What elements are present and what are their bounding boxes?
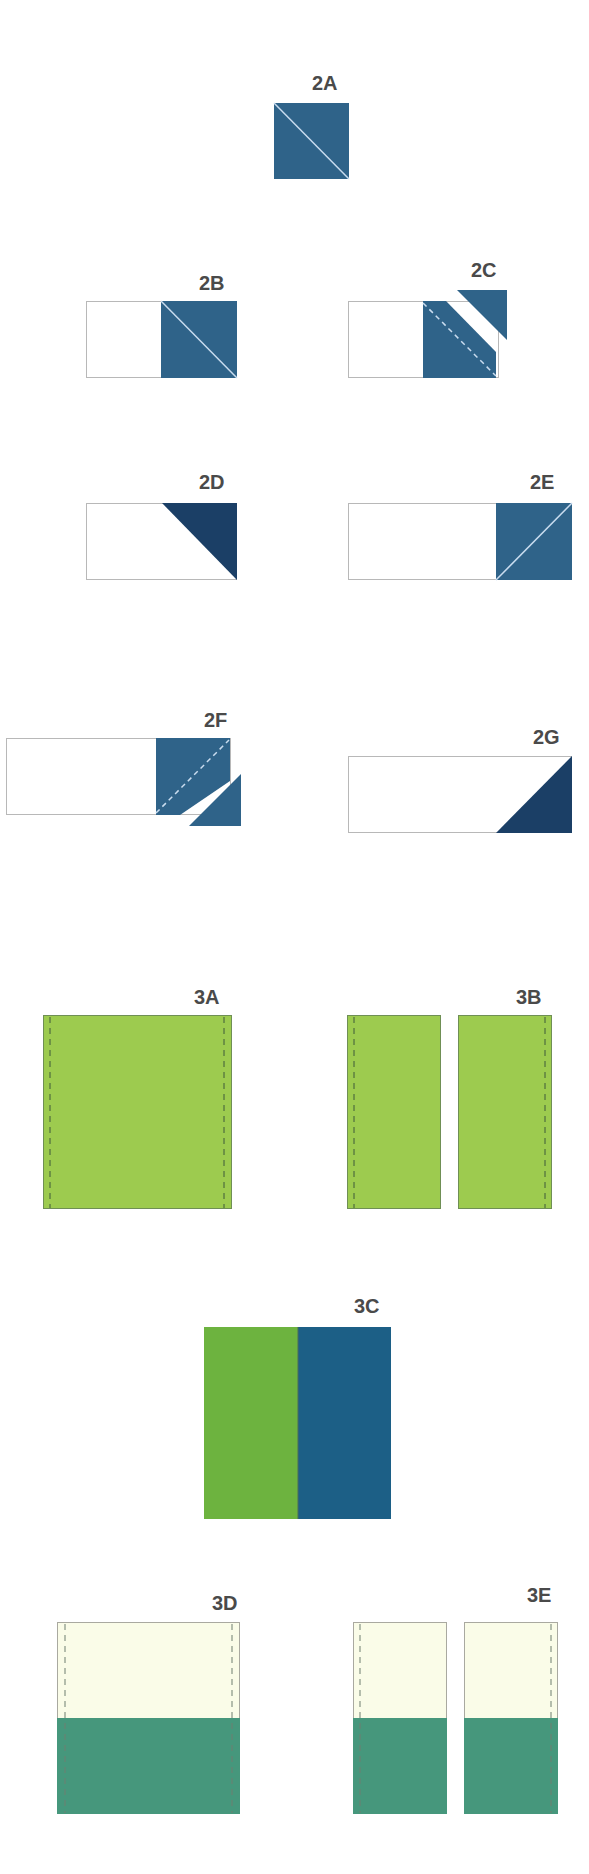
teal-strip-right	[464, 1718, 558, 1814]
step-label-2b: 2B	[199, 272, 225, 294]
step-2e: 2E	[349, 471, 573, 580]
step-label-3d: 3D	[212, 1592, 238, 1614]
step-label-2d: 2D	[199, 471, 225, 493]
green-half	[204, 1327, 298, 1519]
quilt-step-diagram: 2A 2B 2C 2D 2E 2F 2G	[0, 0, 589, 1874]
step-label-2g: 2G	[533, 726, 560, 748]
step-3c: 3C	[204, 1295, 391, 1519]
step-label-2f: 2F	[204, 709, 227, 731]
cream-strip-left	[354, 1623, 447, 1719]
green-square	[44, 1016, 232, 1209]
green-strip-right	[459, 1016, 552, 1209]
teal-strip-left	[353, 1718, 447, 1814]
step-2d: 2D	[87, 471, 238, 580]
step-3e: 3E	[353, 1584, 558, 1814]
step-2b: 2B	[87, 272, 238, 378]
cream-strip-right	[465, 1623, 558, 1719]
green-strip-left	[348, 1016, 441, 1209]
step-3b: 3B	[348, 986, 552, 1209]
step-label-3a: 3A	[194, 986, 220, 1008]
step-label-2c: 2C	[471, 259, 497, 281]
cream-strip	[58, 1623, 240, 1719]
step-label-3e: 3E	[527, 1584, 551, 1606]
step-label-3c: 3C	[354, 1295, 380, 1317]
teal-strip	[57, 1718, 240, 1814]
step-2a: 2A	[274, 72, 349, 179]
step-label-3b: 3B	[516, 986, 542, 1008]
step-label-2a: 2A	[312, 72, 338, 94]
step-label-2e: 2E	[530, 471, 554, 493]
step-3a: 3A	[44, 986, 232, 1209]
step-2f: 2F	[7, 709, 242, 826]
step-2g: 2G	[349, 726, 573, 833]
step-3d: 3D	[57, 1592, 240, 1814]
step-2c: 2C	[349, 259, 508, 378]
teal-blue-half	[298, 1327, 391, 1519]
